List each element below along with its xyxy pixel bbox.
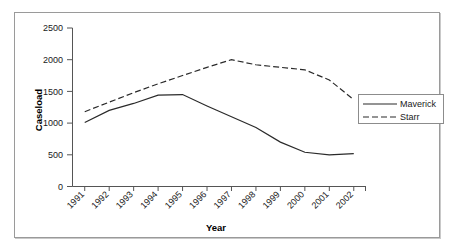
legend-label-starr: Starr: [400, 112, 420, 122]
y-tick-label: 2500: [43, 23, 63, 33]
x-tick-label: 1993: [114, 189, 135, 210]
x-axis: 1991199219931994199519961997199819992000…: [65, 187, 366, 211]
y-tick-group: [67, 28, 73, 187]
x-axis-title: Year: [206, 222, 226, 233]
series-line-maverick: [85, 95, 354, 155]
y-tick-label: 2000: [43, 55, 63, 65]
y-tick-label: 1500: [43, 87, 63, 97]
legend: MaverickStarr: [359, 95, 444, 124]
legend-label-maverick: Maverick: [400, 99, 437, 109]
x-tick-label: 1996: [187, 189, 208, 210]
line-chart: 05001000150020002500 1991199219931994199…: [0, 0, 458, 252]
x-tick-label: 1997: [212, 189, 233, 210]
x-tick-label: 2002: [334, 189, 355, 210]
x-tick-label: 1999: [261, 189, 282, 210]
y-tick-label: 500: [48, 150, 63, 160]
y-axis: 05001000150020002500: [43, 23, 73, 192]
x-tick-label-group: 1991199219931994199519961997199819992000…: [65, 189, 355, 210]
series-line-starr: [85, 60, 354, 112]
y-axis-title: Caseload: [33, 89, 44, 131]
x-tick-label: 2000: [285, 189, 306, 210]
series-group: [85, 60, 354, 155]
x-tick-label: 1994: [138, 189, 159, 210]
x-tick-label: 1991: [65, 189, 86, 210]
x-tick-label: 1998: [236, 189, 257, 210]
x-tick-label: 2001: [309, 189, 330, 210]
y-tick-label: 1000: [43, 118, 63, 128]
x-tick-label: 1995: [163, 189, 184, 210]
y-tick-label: 0: [58, 182, 63, 192]
y-tick-label-group: 05001000150020002500: [43, 23, 63, 192]
x-tick-label: 1992: [89, 189, 110, 210]
